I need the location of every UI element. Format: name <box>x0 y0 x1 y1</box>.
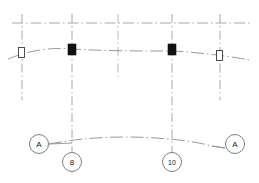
bubble-10[interactable]: 10 <box>163 153 182 172</box>
bubble-8[interactable]: 8 <box>63 153 82 172</box>
bubble-a-right-label: A <box>232 140 238 149</box>
curve-upper-alignment-group <box>8 48 250 60</box>
drawing-svg: A 8 10 A <box>0 0 259 183</box>
marker-left-hollow[interactable] <box>19 48 25 58</box>
curve-upper-alignment <box>8 48 250 60</box>
bubble-8-label: 8 <box>70 158 75 167</box>
bubble-a-left-label: A <box>36 140 42 149</box>
leader-line-a-right <box>212 146 225 148</box>
column-marker-hollow-icon <box>217 51 223 61</box>
marker-grid-8-filled[interactable] <box>68 44 76 55</box>
bubble-a-left[interactable]: A <box>30 135 49 154</box>
marker-grid-10-filled[interactable] <box>168 44 176 55</box>
bubble-a-right[interactable]: A <box>226 135 245 154</box>
column-marker-filled-icon <box>68 44 76 55</box>
gridlines-vertical-group <box>22 14 220 152</box>
curve-lower-alignment <box>49 137 226 148</box>
technical-drawing-canvas: A 8 10 A <box>0 0 259 183</box>
bubble-leader-lines-group <box>49 143 225 148</box>
curve-lower-alignment-group <box>49 137 226 148</box>
bubble-10-label: 10 <box>168 159 176 166</box>
marker-right-hollow[interactable] <box>217 51 223 61</box>
column-marker-hollow-icon <box>19 48 25 58</box>
column-marker-filled-icon <box>168 44 176 55</box>
